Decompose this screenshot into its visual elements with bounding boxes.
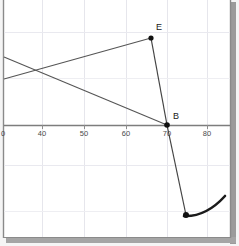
x-tick-label-0: 0	[1, 129, 5, 138]
x-tick-label-40: 40	[38, 129, 46, 138]
plot-window: 0 40 50 60 70 80 E B	[0, 0, 239, 246]
plot-svg: 0 40 50 60 70 80 E B	[0, 0, 239, 246]
x-tick-label-50: 50	[80, 129, 88, 138]
point-bottom	[183, 212, 189, 218]
x-tick-label-80: 80	[203, 129, 211, 138]
point-B	[164, 122, 170, 128]
plot-surface: 0 40 50 60 70 80 E B	[0, 0, 239, 246]
x-tick-label-60: 60	[122, 129, 130, 138]
point-E	[148, 35, 153, 40]
plot-panel	[3, 0, 231, 238]
point-label-E: E	[156, 22, 162, 32]
point-label-B: B	[173, 111, 179, 121]
